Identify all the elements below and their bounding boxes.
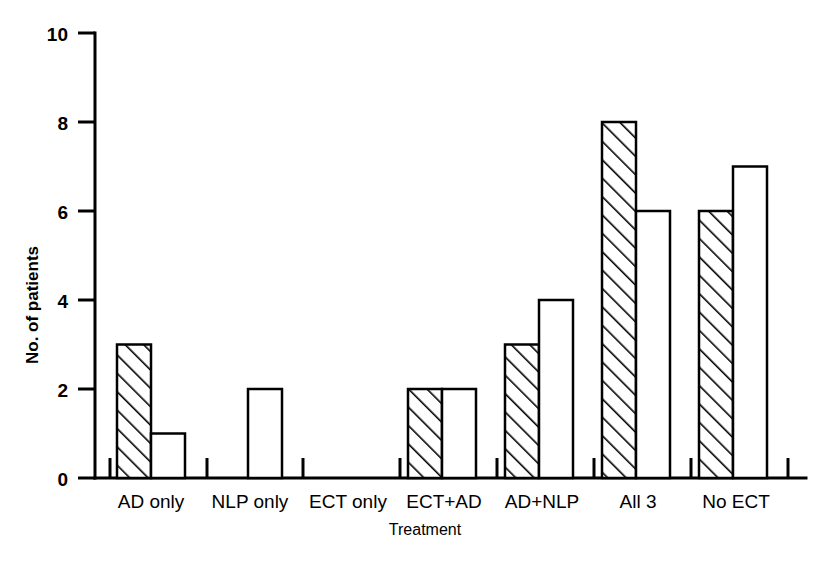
y-tick-label-10: 10 bbox=[47, 24, 68, 45]
y-axis-ticks bbox=[78, 33, 95, 478]
x-category-label-ect-only: ECT only bbox=[309, 491, 387, 512]
bar-group-nlp-only bbox=[248, 389, 282, 478]
bar-open-ad-nlp bbox=[539, 300, 573, 478]
y-tick-label-2: 2 bbox=[57, 380, 68, 401]
chart-canvas: 10 8 6 4 2 0 No. of patients bbox=[0, 0, 829, 562]
bar-group-all-3 bbox=[602, 122, 670, 478]
bar-open-ect-ad bbox=[442, 389, 476, 478]
bar-hatched-no-ect bbox=[699, 211, 733, 478]
bar-group-no-ect bbox=[699, 167, 767, 479]
x-category-label-no-ect: No ECT bbox=[702, 491, 770, 512]
bar-hatched-ad-only bbox=[117, 345, 151, 479]
y-axis-title: No. of patients bbox=[23, 246, 42, 364]
bar-hatched-ect-ad bbox=[408, 389, 442, 478]
x-axis-title: Treatment bbox=[389, 521, 462, 538]
x-category-label-ect-ad: ECT+AD bbox=[406, 491, 482, 512]
bar-open-ad-only bbox=[151, 434, 185, 479]
y-tick-label-0: 0 bbox=[57, 469, 68, 490]
x-category-label-nlp-only: NLP only bbox=[212, 491, 289, 512]
x-category-label-ad-nlp: AD+NLP bbox=[505, 491, 579, 512]
y-tick-label-8: 8 bbox=[57, 113, 68, 134]
bar-open-no-ect bbox=[733, 167, 767, 479]
bar-open-nlp-only bbox=[248, 389, 282, 478]
bar-open-all-3 bbox=[636, 211, 670, 478]
x-category-label-all-3: All 3 bbox=[620, 491, 657, 512]
bar-group-ad-only bbox=[117, 345, 185, 479]
bar-chart-figure: 10 8 6 4 2 0 No. of patients bbox=[0, 0, 829, 562]
x-category-label-ad-only: AD only bbox=[118, 491, 185, 512]
y-tick-label-6: 6 bbox=[57, 202, 68, 223]
bar-group-ad-nlp bbox=[505, 300, 573, 478]
y-tick-label-4: 4 bbox=[57, 291, 68, 312]
bar-hatched-ad-nlp bbox=[505, 345, 539, 479]
bar-group-ect-ad bbox=[408, 389, 476, 478]
bar-hatched-all-3 bbox=[602, 122, 636, 478]
